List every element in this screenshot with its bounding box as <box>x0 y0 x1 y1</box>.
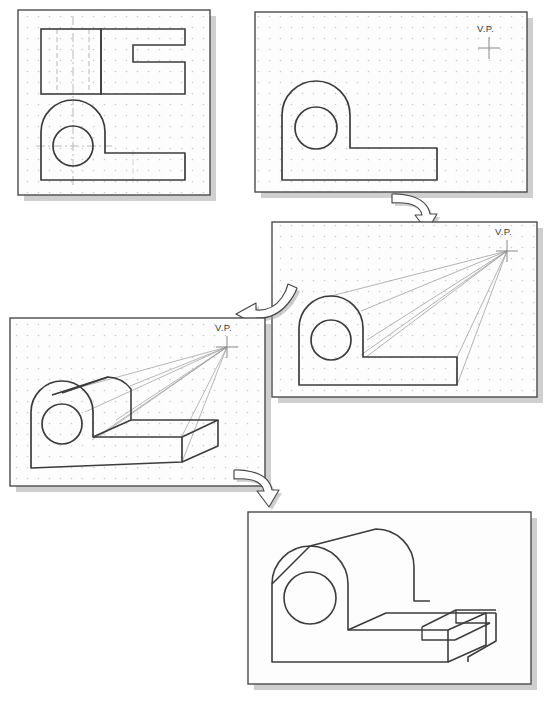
panel-2-vp-label: V.P. <box>477 23 494 34</box>
panel-2-grid <box>255 12 527 192</box>
panel-1-grid <box>18 10 210 195</box>
panel-3-vp-label: V.P. <box>495 226 512 237</box>
panel-3-grid <box>272 222 537 397</box>
panel-2-front-view-with-vp: V.P. <box>255 12 533 198</box>
panel-3-projection-lines: V.P. <box>272 222 543 403</box>
technical-drawing-figure: V.P. <box>0 0 548 701</box>
panel-1-orthographic-views <box>18 10 216 201</box>
panel-4-depth-established: V.P. <box>10 318 271 492</box>
panel-5-sheet <box>248 512 531 684</box>
panel-5-completed-perspective <box>248 512 537 690</box>
figure-stage: V.P. <box>0 0 548 701</box>
panel-4-vp-label: V.P. <box>215 322 232 333</box>
